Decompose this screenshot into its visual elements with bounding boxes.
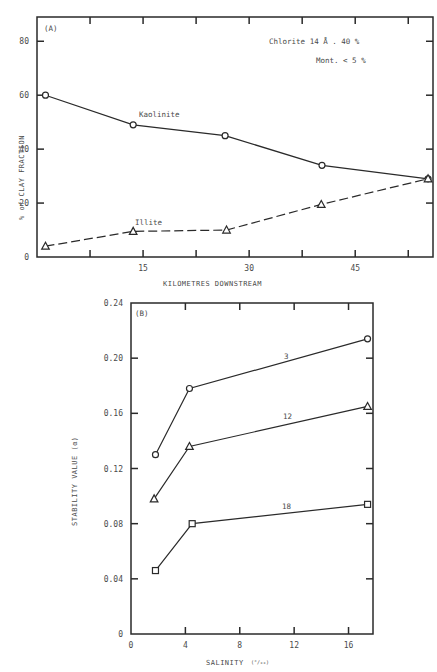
panel-a-series-line-kaolinite xyxy=(45,95,428,179)
panel-b-y-tick-label: 0.20 xyxy=(104,354,123,363)
panel-b-x-axis-unit: (°/₀₀) xyxy=(251,659,269,665)
panel-b-data-point-18 xyxy=(365,501,371,507)
panel-a-data-point-kaolinite xyxy=(42,92,48,98)
panel-b-y-axis-label: STABILITY VALUE (α) xyxy=(71,436,79,526)
panel-b-x-tick-label: 16 xyxy=(344,641,354,650)
panel-b-series-label-18: 18 xyxy=(282,502,292,511)
panel-b-x-tick-label: 12 xyxy=(289,641,299,650)
panel-b-frame xyxy=(131,303,373,634)
panel-b-series-line-18 xyxy=(155,504,367,570)
panel-a-y-tick-label: 0 xyxy=(24,253,29,262)
panel-a-y-tick-label: 40 xyxy=(19,145,29,154)
figure: (A) Chlorite 14 Å . 40 % Mont. < 5 % Kao… xyxy=(0,0,437,672)
panel-b-x-tick-label: 0 xyxy=(129,641,134,650)
panel-a-y-tick-label: 60 xyxy=(19,91,29,100)
panel-b-y-tick-label: 0 xyxy=(118,630,123,639)
panel-a-label: (A) xyxy=(44,24,58,33)
panel-b-data-point-3 xyxy=(152,452,158,458)
panel-b-data-point-18 xyxy=(152,568,158,574)
panel-a-x-tick-label: 30 xyxy=(244,264,254,273)
panel-b-y-tick-label: 0.24 xyxy=(104,299,123,308)
panel-b-series-line-3 xyxy=(155,339,367,455)
panel-a-x-tick-label: 45 xyxy=(350,264,360,273)
panel-a-data-point-illite xyxy=(317,200,325,207)
panel-b-data-point-3 xyxy=(365,336,371,342)
panel-b-x-tick-label: 8 xyxy=(237,641,242,650)
panel-a-frame xyxy=(37,17,433,257)
panel-b-data-point-3 xyxy=(186,386,192,392)
panel-a-series-label-illite: Illite xyxy=(135,218,163,227)
panel-b-x-axis-label: SALINITY xyxy=(206,659,244,667)
panel-b-series-label-12: 12 xyxy=(283,412,292,421)
panel-b-data-point-12 xyxy=(364,402,372,409)
panel-b-x-tick-label: 4 xyxy=(183,641,188,650)
panel-a-series-label-kaolinite: Kaolinite xyxy=(139,110,180,119)
panel-b-y-tick-label: 0.04 xyxy=(104,575,123,584)
panel-b-series-label-3: 3 xyxy=(284,352,289,361)
panel-a-y-tick-label: 80 xyxy=(19,37,29,46)
panel-a-data-point-kaolinite xyxy=(222,133,228,139)
panel-b-y-tick-label: 0.08 xyxy=(104,520,123,529)
panel-b-plot: 048121600.040.080.120.160.200.24 xyxy=(104,299,373,650)
panel-b-y-tick-label: 0.12 xyxy=(104,465,123,474)
panel-b-data-point-18 xyxy=(189,521,195,527)
panel-a-data-point-kaolinite xyxy=(130,122,136,128)
panel-a-series-line-illite xyxy=(45,179,428,246)
panel-b-series-line-12 xyxy=(154,406,367,498)
panel-b-y-tick-label: 0.16 xyxy=(104,409,123,418)
panel-a-plot: 153045020406080 xyxy=(19,17,433,273)
panel-a-x-axis-label: KILOMETRES DOWNSTREAM xyxy=(163,280,262,288)
panel-a-y-tick-label: 20 xyxy=(19,199,29,208)
panel-a-x-tick-label: 15 xyxy=(138,264,148,273)
panel-a-annotation-mont: Mont. < 5 % xyxy=(316,56,366,65)
panel-a-data-point-kaolinite xyxy=(319,162,325,168)
panel-a-annotation-chlorite: Chlorite 14 Å . 40 % xyxy=(269,37,360,46)
panel-b-label: (B) xyxy=(135,309,149,318)
